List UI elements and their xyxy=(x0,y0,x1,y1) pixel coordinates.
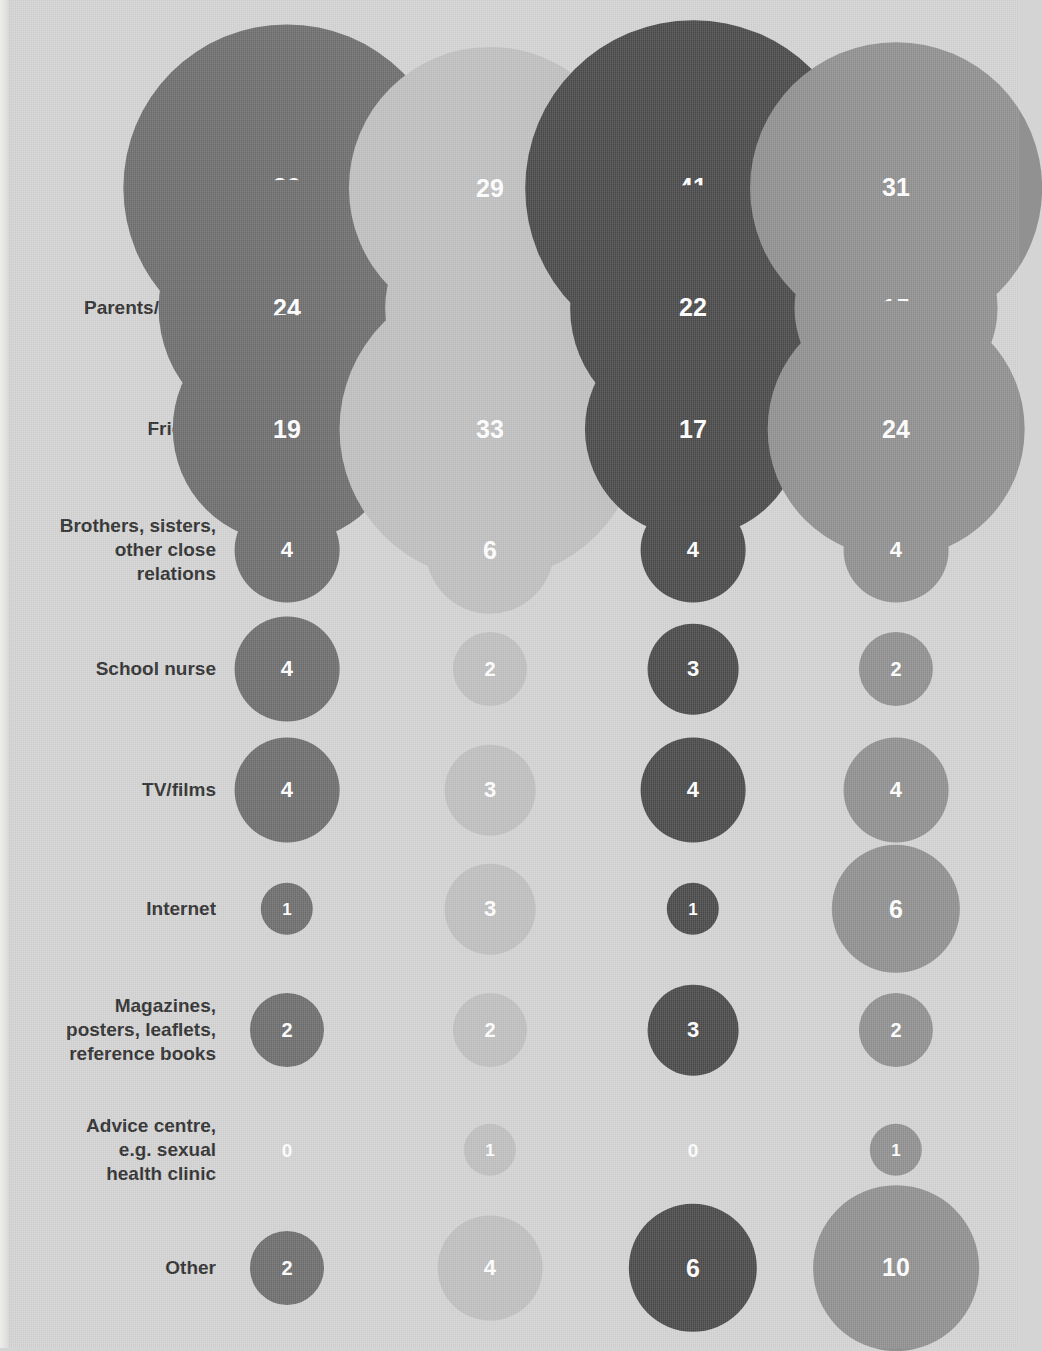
bubble[interactable]: 3 xyxy=(445,864,536,955)
row-label: Other xyxy=(1,1256,216,1280)
bubble-value-label: 4 xyxy=(281,779,293,801)
bubble[interactable]: 3 xyxy=(648,985,739,1076)
row-label: School nurse xyxy=(1,657,216,681)
bubble-value-label: 2 xyxy=(281,1020,292,1040)
bubble-value-label: 33 xyxy=(476,417,504,442)
bubble[interactable]: 6 xyxy=(426,486,554,614)
bubble-value-label: 2 xyxy=(484,1020,495,1040)
bubble-value-label: 19 xyxy=(273,417,301,442)
bubble-value-label: 2 xyxy=(281,1258,292,1278)
bubble-value-label: 24 xyxy=(882,416,910,441)
bubble[interactable]: 4 xyxy=(235,617,340,722)
bubble[interactable]: 2 xyxy=(859,632,933,706)
bubble[interactable]: 1 xyxy=(464,1124,516,1176)
bubble-value-label: 29 xyxy=(476,175,504,200)
bubble-value-label: 17 xyxy=(679,416,707,441)
bubble[interactable]: 6 xyxy=(629,1204,757,1332)
bubble-value-label: 4 xyxy=(687,779,699,801)
bubble-value-label: 22 xyxy=(679,295,707,320)
bubble-value-label: 3 xyxy=(687,1019,699,1041)
bubble[interactable]: 4 xyxy=(641,738,746,843)
bubble-value-label: 4 xyxy=(890,539,902,561)
bubble[interactable]: 4 xyxy=(844,498,949,603)
bubble-value-label: 6 xyxy=(686,1256,700,1281)
bubble-value-label: 3 xyxy=(484,779,496,801)
bubble[interactable]: 4 xyxy=(438,1216,543,1321)
bubble[interactable]: 4 xyxy=(641,498,746,603)
bubble-value-zero: 0 xyxy=(282,1141,293,1160)
bubble[interactable]: 1 xyxy=(667,883,719,935)
bubble-value-label: 1 xyxy=(282,900,291,917)
bubble[interactable]: 3 xyxy=(445,745,536,836)
bubble-value-label: 4 xyxy=(687,539,699,561)
bubble[interactable]: 2 xyxy=(453,993,527,1067)
bubble-value-label: 2 xyxy=(890,1020,901,1040)
bubble-value-label: 6 xyxy=(889,897,903,922)
bubble-value-label: 31 xyxy=(882,176,910,201)
row-label: Advice centre, e.g. sexual health clinic xyxy=(1,1114,216,1185)
bubble[interactable]: 2 xyxy=(453,632,527,706)
bubble[interactable]: 2 xyxy=(859,993,933,1067)
bubble-value-label: 4 xyxy=(281,539,293,561)
bubble-value-label: 2 xyxy=(890,659,901,679)
bubble-value-label: 4 xyxy=(890,779,902,801)
bubble[interactable]: 2 xyxy=(250,993,324,1067)
bubble-value-label: 1 xyxy=(688,900,697,917)
row-label: Internet xyxy=(1,897,216,921)
bubble-value-label: 3 xyxy=(687,658,699,680)
row-label: Magazines, posters, leaflets, reference … xyxy=(1,994,216,1065)
bubble-value-label: 2 xyxy=(484,659,495,679)
bubble[interactable]: 4 xyxy=(844,738,949,843)
bubble[interactable]: 1 xyxy=(261,883,313,935)
bubble[interactable]: 6 xyxy=(832,845,960,973)
bubble-value-label: 3 xyxy=(484,898,496,920)
bubble[interactable]: 4 xyxy=(235,738,340,843)
bubble-value-label: 1 xyxy=(485,1141,494,1158)
bubble-value-label: 4 xyxy=(281,658,293,680)
bubble-value-label: 6 xyxy=(483,538,497,563)
bubble-value-label: 4 xyxy=(484,1257,496,1279)
bubble[interactable]: 4 xyxy=(235,498,340,603)
bubble[interactable]: 3 xyxy=(648,624,739,715)
row-label: TV/films xyxy=(1,778,216,802)
bubble[interactable]: 2 xyxy=(250,1231,324,1305)
bubble-value-label: 10 xyxy=(882,1255,910,1280)
row-label: Brothers, sisters, other close relations xyxy=(1,514,216,585)
bubble[interactable]: 10 xyxy=(813,1185,979,1351)
bubble-value-label: 1 xyxy=(891,1141,900,1158)
bubble[interactable]: 1 xyxy=(870,1124,922,1176)
bubble-value-zero: 0 xyxy=(688,1141,699,1160)
